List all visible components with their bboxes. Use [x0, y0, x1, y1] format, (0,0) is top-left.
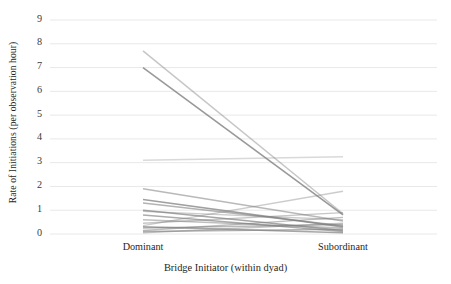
series-line: [143, 157, 343, 161]
x-axis-tick-label: Dominant: [123, 241, 164, 252]
x-axis-tick-label: Subordinant: [318, 241, 368, 252]
y-axis-tick-label: 2: [18, 179, 42, 190]
y-axis-tick-label: 7: [18, 60, 42, 71]
y-axis-tick-label: 6: [18, 84, 42, 95]
y-axis-tick-label: 9: [18, 13, 42, 24]
slope-chart-figure: Rate of Initiations (per observation hou…: [0, 0, 451, 284]
y-axis-tick-label: 3: [18, 155, 42, 166]
y-axis-tick-label: 5: [18, 108, 42, 119]
y-axis-tick-label: 0: [18, 227, 42, 238]
series-lines: [143, 51, 343, 233]
y-axis-title: Rate of Initiations (per observation hou…: [8, 41, 19, 203]
plot-canvas: [0, 0, 451, 284]
series-line: [143, 68, 343, 215]
y-axis-tick-label: 1: [18, 203, 42, 214]
x-axis-title: Bridge Initiator (within dyad): [0, 262, 451, 273]
series-line: [143, 51, 343, 214]
y-axis-tick-label: 4: [18, 131, 42, 142]
grid-lines: [50, 20, 437, 234]
y-axis-tick-label: 8: [18, 36, 42, 47]
